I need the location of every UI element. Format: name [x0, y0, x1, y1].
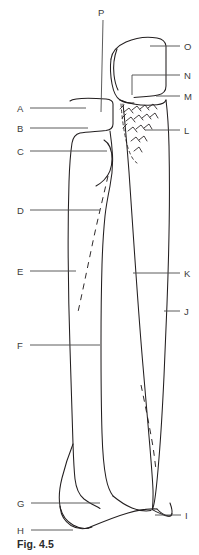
- radial-tuberosity-marking: [96, 140, 112, 186]
- label-i[interactable]: I: [185, 511, 188, 521]
- label-m[interactable]: M: [184, 92, 192, 102]
- label-d[interactable]: D: [17, 206, 24, 216]
- label-l[interactable]: L: [184, 126, 189, 136]
- distal-junction-line: [113, 496, 151, 511]
- bone-diagram-svg: [0, 0, 199, 555]
- leader-line-p: [101, 20, 103, 112]
- label-g[interactable]: G: [17, 499, 25, 509]
- radius-distal-inferior-margin: [88, 509, 157, 528]
- radius-medial-border: [101, 131, 113, 496]
- ulna-medial-border: [123, 104, 153, 510]
- label-k[interactable]: K: [184, 269, 191, 279]
- label-e[interactable]: E: [17, 267, 24, 277]
- ulna-coronoid-transverse-line: [120, 100, 166, 105]
- label-f[interactable]: F: [17, 341, 23, 351]
- figure-container: ABCDEFGHONMLKJIP Fig. 4.5: [0, 0, 199, 555]
- label-n[interactable]: N: [184, 71, 191, 81]
- ulna-lateral-border: [152, 100, 169, 510]
- radius-interosseous-dashed: [78, 176, 108, 312]
- dashed-internal-lines: [78, 176, 156, 470]
- label-a[interactable]: A: [17, 104, 24, 114]
- hatching-boundary: [121, 104, 137, 163]
- figure-caption: Fig. 4.5: [17, 538, 54, 550]
- label-o[interactable]: O: [184, 42, 192, 52]
- label-j[interactable]: J: [184, 307, 189, 317]
- label-c[interactable]: C: [17, 147, 24, 157]
- leader-lines-group: [30, 20, 181, 530]
- label-h[interactable]: H: [17, 526, 24, 536]
- label-b[interactable]: B: [17, 124, 24, 134]
- bone-outlines: [59, 37, 172, 528]
- trochlear-notch-inner-ridge: [114, 49, 118, 90]
- radius-outline: [68, 98, 113, 508]
- label-p[interactable]: P: [98, 8, 105, 18]
- radius-distal-flare: [59, 444, 92, 528]
- ulna-head-outline: [152, 503, 172, 516]
